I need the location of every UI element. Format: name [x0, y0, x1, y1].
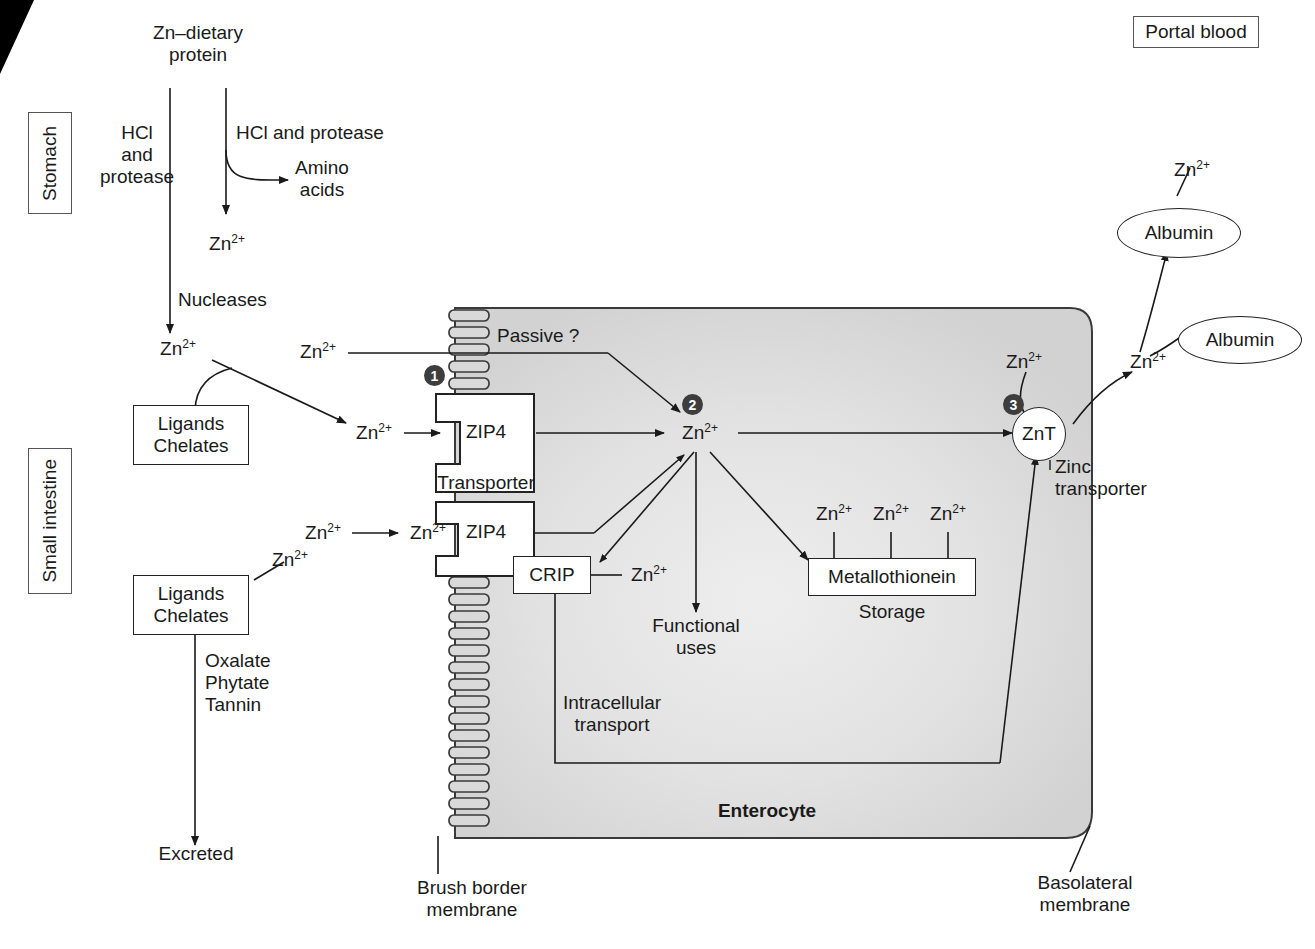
stomach-label-text: Stomach	[39, 126, 61, 201]
hcl-protease-right-label: HCl and protease	[236, 122, 384, 144]
enterocyte-text: Enterocyte	[718, 800, 816, 821]
step-1-number: 1	[431, 368, 439, 384]
znt-text: ZnT	[1022, 423, 1056, 445]
functional-uses-label: Functional uses	[652, 615, 740, 659]
passive-pathway-text: Passive ?	[497, 325, 579, 346]
excreted-label: Excreted	[159, 843, 234, 865]
albumin-free-text: Albumin	[1206, 329, 1275, 351]
crip-box[interactable]: CRIP	[513, 556, 591, 594]
hcl-protease-right-text: HCl and protease	[236, 122, 384, 143]
albumin-bound[interactable]: Albumin	[1117, 208, 1241, 258]
inhibitors-label: Oxalate Phytate Tannin	[205, 650, 270, 716]
nucleases-label: Nucleases	[178, 289, 267, 311]
zip4-upper-label: ZIP4	[466, 421, 506, 443]
zn-ion-zip4-lumen: Zn2+	[305, 521, 341, 544]
zn-dietary-protein-label: Zn–dietary protein	[153, 22, 243, 66]
storage-caption-text: Storage	[859, 601, 926, 622]
zn-ion-mt-3: Zn2+	[930, 502, 966, 525]
region-label-portal-blood: Portal blood	[1133, 16, 1259, 48]
zn-ion-exported: Zn2+	[1130, 350, 1166, 373]
zn-ion-passive-lumen: Zn2+	[300, 340, 336, 363]
region-label-stomach: Stomach	[28, 112, 72, 214]
zn-ion-near-znt: Zn2+	[1006, 350, 1042, 373]
basolateral-caption: Basolateral membrane	[1037, 872, 1132, 916]
step-badge-2: 2	[682, 394, 703, 415]
metallothionein-text: Metallothionein	[828, 566, 956, 588]
zn-ion-lumen: Zn2+	[160, 337, 196, 360]
znt-transporter[interactable]: ZnT	[1012, 407, 1066, 461]
albumin-free[interactable]: Albumin	[1178, 316, 1302, 364]
zn-ion-chelated: Zn2+	[272, 548, 308, 571]
crip-text: CRIP	[529, 564, 574, 586]
functional-uses-text: Functional uses	[652, 615, 740, 659]
step-badge-3: 3	[1003, 394, 1024, 415]
brush-border-caption-text: Brush border membrane	[417, 877, 527, 921]
zn-pool-cytosol: Zn2+	[682, 421, 718, 444]
transporter-caption: Transporter	[437, 472, 535, 494]
hcl-protease-left-text: HCl and protease	[100, 122, 174, 188]
ligands-chelates-box-upper[interactable]: Ligands Chelates	[133, 405, 249, 465]
step-badge-1: 1	[424, 365, 445, 386]
brush-border-caption: Brush border membrane	[417, 877, 527, 921]
region-label-small-intestine: Small intestine	[28, 448, 72, 594]
step-3-number: 3	[1010, 397, 1018, 413]
excreted-text: Excreted	[159, 843, 234, 864]
zn-ion-mt-1: Zn2+	[816, 502, 852, 525]
zn-dietary-protein-text: Zn–dietary protein	[153, 22, 243, 66]
zn-ion-zip4-membrane: Zn2+	[410, 521, 446, 544]
znt-caption: Zinc transporter	[1055, 456, 1147, 500]
zip4-lower-label: ZIP4	[466, 521, 506, 543]
intracellular-transport-label: Intracellular transport	[563, 692, 661, 736]
basolateral-caption-text: Basolateral membrane	[1037, 872, 1132, 916]
portal-blood-label-text: Portal blood	[1145, 21, 1246, 43]
zip4-lower-text: ZIP4	[466, 521, 506, 542]
ligands-chelates-box-lower[interactable]: Ligands Chelates	[133, 575, 249, 635]
zip4-upper-text: ZIP4	[466, 421, 506, 442]
small-intestine-label-text: Small intestine	[39, 459, 61, 583]
zn-ion-stomach: Zn2+	[209, 232, 245, 255]
step-2-number: 2	[689, 397, 697, 413]
metallothionein-box[interactable]: Metallothionein	[808, 558, 976, 596]
inhibitors-text: Oxalate Phytate Tannin	[205, 650, 270, 716]
zn-ion-crip: Zn2+	[631, 563, 667, 586]
zn-ion-bound-ligand: Zn2+	[356, 421, 392, 444]
zn-ion-mt-2: Zn2+	[873, 502, 909, 525]
transporter-caption-text: Transporter	[437, 472, 535, 493]
passive-pathway-label: Passive ?	[497, 325, 579, 347]
enterocyte-label: Enterocyte	[718, 800, 816, 822]
nucleases-text: Nucleases	[178, 289, 267, 310]
ligands-chelates-lower-text: Ligands Chelates	[154, 583, 229, 627]
storage-caption: Storage	[859, 601, 926, 623]
intracellular-transport-text: Intracellular transport	[563, 692, 661, 736]
znt-caption-text: Zinc transporter	[1055, 456, 1147, 500]
albumin-bound-text: Albumin	[1145, 222, 1214, 244]
amino-acids-text: Amino acids	[295, 157, 349, 201]
hcl-protease-left-label: HCl and protease	[100, 122, 174, 188]
figure-canvas: Stomach Small intestine Portal blood Zn–…	[0, 0, 1315, 949]
ligands-chelates-upper-text: Ligands Chelates	[154, 413, 229, 457]
amino-acids-label: Amino acids	[295, 157, 349, 201]
zn-ion-on-albumin: Zn2+	[1174, 158, 1210, 181]
